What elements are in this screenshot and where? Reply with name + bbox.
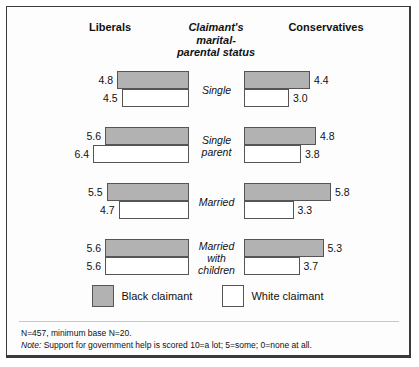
header-conservatives: Conservatives (251, 21, 401, 34)
bar-track-right-black: 5.3 (244, 239, 346, 257)
bar-track-right-black: 5.8 (244, 183, 354, 201)
chart-row: 5.54.7Married5.83.3 (7, 175, 409, 231)
bar-value-label: 4.5 (99, 92, 122, 104)
bar-value-label: 4.8 (316, 130, 339, 142)
bar-right-black (244, 127, 316, 145)
chart-figure: Liberals Claimant's marital-parental sta… (6, 6, 411, 358)
bar-right-black (244, 239, 324, 257)
bar-track-left-white: 6.4 (70, 145, 189, 163)
category-label: Single parent (189, 125, 244, 167)
bar-value-label: 3.3 (294, 204, 317, 216)
row-half-conservatives: 5.83.3 (244, 181, 416, 223)
bar-left-white (105, 257, 189, 275)
legend-item-white: White claimant (222, 285, 323, 307)
bar-right-white (244, 145, 301, 163)
footnote-note-text: Support for government help is scored 10… (41, 340, 312, 350)
bar-left-black (117, 71, 189, 89)
bar-track-left-white: 4.7 (96, 201, 189, 219)
bar-left-black (107, 183, 190, 201)
bar-value-label: 3.7 (300, 260, 323, 272)
chart-row: 5.66.4Single parent4.83.8 (7, 119, 409, 175)
bar-left-black (105, 239, 189, 257)
bar-value-label: 5.8 (331, 186, 354, 198)
column-headers: Liberals Claimant's marital-parental sta… (7, 15, 409, 61)
bar-value-label: 5.5 (84, 186, 107, 198)
footnote-base: N=457, minimum base N=20. (21, 327, 401, 339)
bar-left-white (119, 201, 190, 219)
bar-track-left-black: 5.5 (84, 183, 189, 201)
category-label: Married with children (189, 237, 244, 279)
bar-track-right-white: 3.7 (244, 257, 322, 275)
bar-track-left-black: 4.8 (94, 71, 189, 89)
bar-right-white (244, 257, 300, 275)
bar-value-label: 4.7 (96, 204, 119, 216)
row-half-liberals: 5.54.7 (17, 181, 189, 223)
bar-track-left-white: 5.6 (82, 257, 189, 275)
bar-value-label: 4.8 (94, 74, 117, 86)
footnote-divider (19, 321, 399, 322)
bar-right-white (244, 89, 289, 107)
bar-left-white (93, 145, 189, 163)
legend-swatch-white (222, 285, 244, 307)
legend-item-black: Black claimant (92, 285, 192, 307)
row-half-liberals: 5.66.4 (17, 125, 189, 167)
bar-track-left-black: 5.6 (82, 239, 189, 257)
footnotes: N=457, minimum base N=20. Note: Support … (21, 327, 401, 351)
bar-value-label: 3.8 (301, 148, 324, 160)
row-half-conservatives: 4.43.0 (244, 69, 416, 111)
header-claimant-status: Claimant's marital-parental status (175, 21, 257, 59)
bar-value-label: 5.3 (324, 242, 347, 254)
bar-value-label: 4.4 (310, 74, 333, 86)
bar-track-right-white: 3.8 (244, 145, 324, 163)
bar-value-label: 6.4 (70, 148, 93, 160)
bar-left-black (105, 127, 189, 145)
chart-legend: Black claimant White claimant (7, 285, 409, 307)
chart-rows: 4.84.5Single4.43.05.66.4Single parent4.8… (7, 63, 409, 287)
header-liberals: Liberals (35, 21, 185, 34)
bar-track-left-white: 4.5 (99, 89, 189, 107)
legend-swatch-black (92, 285, 114, 307)
bar-right-white (244, 201, 294, 219)
chart-row: 5.65.6Married with children5.33.7 (7, 231, 409, 287)
bar-track-right-black: 4.4 (244, 71, 333, 89)
legend-label-white: White claimant (251, 290, 323, 302)
footnote-note: Note: Support for government help is sco… (21, 339, 401, 351)
legend-label-black: Black claimant (121, 290, 192, 302)
row-half-liberals: 4.84.5 (17, 69, 189, 111)
bar-value-label: 3.0 (289, 92, 312, 104)
bar-value-label: 5.6 (82, 260, 105, 272)
bar-track-right-black: 4.8 (244, 127, 339, 145)
bar-value-label: 5.6 (82, 130, 105, 142)
bar-track-right-white: 3.0 (244, 89, 312, 107)
bar-track-right-white: 3.3 (244, 201, 316, 219)
footnote-note-prefix: Note: (21, 340, 41, 350)
chart-row: 4.84.5Single4.43.0 (7, 63, 409, 119)
row-half-conservatives: 4.83.8 (244, 125, 416, 167)
bar-right-black (244, 183, 331, 201)
category-label: Married (189, 181, 244, 223)
bar-track-left-black: 5.6 (82, 127, 189, 145)
row-half-liberals: 5.65.6 (17, 237, 189, 279)
bar-right-black (244, 71, 310, 89)
category-label: Single (189, 69, 244, 111)
bar-value-label: 5.6 (82, 242, 105, 254)
row-half-conservatives: 5.33.7 (244, 237, 416, 279)
bar-left-white (122, 89, 190, 107)
